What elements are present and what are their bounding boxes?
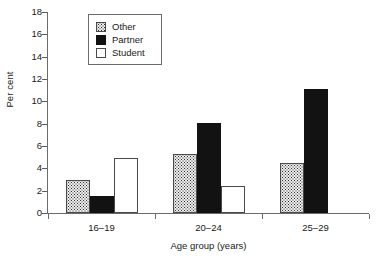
y-axis-tick-label: 2 — [28, 186, 42, 196]
y-axis-tick-mark — [42, 146, 47, 147]
y-axis-tick-labels: 024681012141618 — [24, 0, 42, 261]
bar-other — [280, 163, 304, 213]
y-axis-tick-mark — [42, 57, 47, 58]
y-axis-tick-label: 4 — [28, 164, 42, 174]
x-axis-tick-mark — [155, 214, 156, 219]
bar-chart-figure: Per cent 024681012141618 Age group (year… — [0, 0, 380, 261]
x-axis-tick-mark — [262, 214, 263, 219]
legend-label-partner: Partner — [112, 35, 143, 45]
y-axis-tick-mark — [42, 101, 47, 102]
y-axis-tick-label: 8 — [28, 119, 42, 129]
y-axis-tick-label: 10 — [28, 97, 42, 107]
bar-partner — [197, 123, 221, 213]
y-axis-tick-mark — [42, 213, 47, 214]
y-axis-tick-label: 12 — [28, 74, 42, 84]
y-axis-tick-mark — [42, 191, 47, 192]
legend-label-other: Other — [112, 22, 136, 32]
legend-swatch-student-icon — [96, 48, 106, 58]
y-axis-tick-label: 6 — [28, 141, 42, 151]
y-axis-tick-mark — [42, 79, 47, 80]
y-axis-tick-label: 18 — [28, 7, 42, 17]
y-axis-tick-label: 0 — [28, 208, 42, 218]
legend-swatch-other-icon — [96, 22, 106, 32]
x-axis-tick-mark — [48, 214, 49, 219]
x-axis-tick-label: 16–19 — [88, 222, 114, 233]
bar-group — [155, 12, 262, 213]
x-axis-line — [47, 213, 369, 214]
chart-legend: Other Partner Student — [88, 14, 162, 65]
legend-item-student: Student — [96, 46, 155, 59]
y-axis-tick-mark — [42, 12, 47, 13]
y-axis-tick-mark — [42, 168, 47, 169]
legend-label-student: Student — [112, 48, 145, 58]
x-axis-tick-label: 25–29 — [302, 222, 328, 233]
y-axis-title: Per cent — [4, 55, 15, 125]
legend-swatch-partner-icon — [96, 35, 106, 45]
x-axis-tick-label: 20–24 — [195, 222, 221, 233]
bar-student — [114, 158, 138, 213]
bar-other — [173, 154, 197, 213]
y-axis-tick-mark — [42, 34, 47, 35]
bar-other — [66, 180, 90, 214]
bar-group — [262, 12, 369, 213]
bar-student — [221, 186, 245, 213]
y-axis-tick-label: 16 — [28, 30, 42, 40]
legend-item-partner: Partner — [96, 33, 155, 46]
y-axis-tick-mark — [42, 124, 47, 125]
y-axis-tick-label: 14 — [28, 52, 42, 62]
x-axis-title: Age group (years) — [48, 240, 369, 251]
x-axis-tick-mark — [369, 214, 370, 219]
bar-partner — [304, 89, 328, 213]
legend-item-other: Other — [96, 20, 155, 33]
bar-partner — [90, 196, 114, 213]
